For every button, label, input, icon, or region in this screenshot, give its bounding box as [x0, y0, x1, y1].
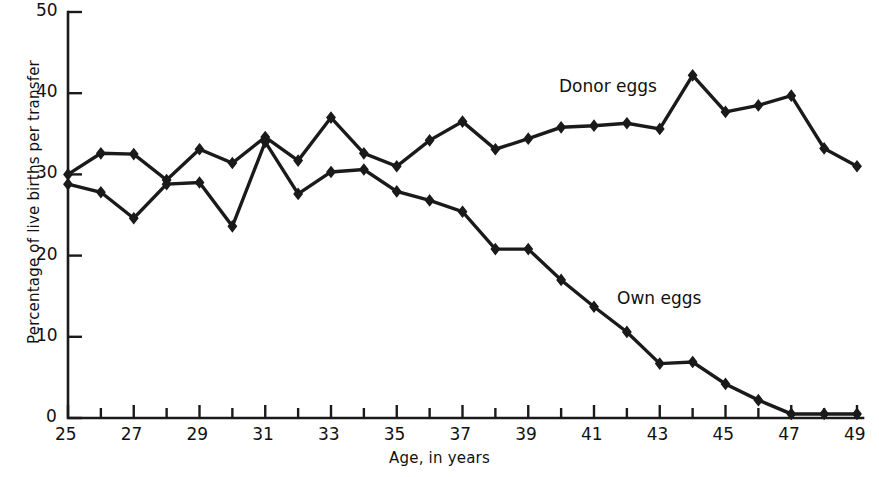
x-tick-label: 45 [713, 424, 735, 444]
x-tick-label: 43 [647, 424, 669, 444]
x-tick-label: 49 [844, 424, 866, 444]
y-tick-label: 30 [36, 162, 58, 182]
x-tick-label: 31 [252, 424, 274, 444]
series-own-eggs [64, 137, 861, 419]
x-tick-label: 41 [581, 424, 603, 444]
x-tick-label: 35 [384, 424, 406, 444]
y-tick-label: 20 [36, 244, 58, 264]
chart-figure: Percentage of live births per transfer A… [0, 0, 879, 477]
series-donor-eggs [64, 70, 861, 185]
x-axis-title: Age, in years [0, 449, 879, 467]
line-chart-plot [0, 0, 879, 477]
y-tick-label: 50 [36, 0, 58, 20]
x-tick-label: 29 [187, 424, 209, 444]
y-axis-title: Percentage of live births per transfer [25, 84, 43, 344]
x-tick-label: 47 [778, 424, 800, 444]
series-label-own-eggs: Own eggs [617, 288, 701, 308]
y-tick-label: 0 [46, 406, 57, 426]
series-label-donor-eggs: Donor eggs [559, 76, 657, 96]
y-tick-label: 40 [36, 81, 58, 101]
x-tick-label: 33 [318, 424, 340, 444]
y-axis-ticks [68, 12, 82, 418]
x-tick-label: 39 [515, 424, 537, 444]
x-tick-label: 25 [55, 424, 77, 444]
data-series-layer [64, 70, 861, 419]
x-tick-label: 27 [121, 424, 143, 444]
x-tick-label: 37 [450, 424, 472, 444]
x-axis-ticks [68, 405, 857, 418]
y-tick-label: 10 [36, 325, 58, 345]
